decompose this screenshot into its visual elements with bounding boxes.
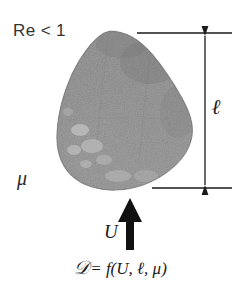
creeping-flow-drag-figure: Re < 1 μ ℓ U 𝒟= f(U, ℓ, μ): [0, 0, 241, 286]
length-label: ℓ: [212, 97, 221, 118]
drag-symbol: 𝒟: [74, 257, 90, 278]
figure-canvas: [0, 0, 241, 286]
viscosity-label: μ: [17, 168, 27, 188]
velocity-arrow: [118, 198, 142, 250]
drag-equation-rhs: = f(U, ℓ, μ): [90, 259, 167, 278]
drag-equation: 𝒟= f(U, ℓ, μ): [0, 258, 241, 277]
velocity-label: U: [104, 222, 118, 241]
irregular-particle: [50, 25, 200, 195]
reynolds-number-label: Re < 1: [13, 22, 66, 39]
